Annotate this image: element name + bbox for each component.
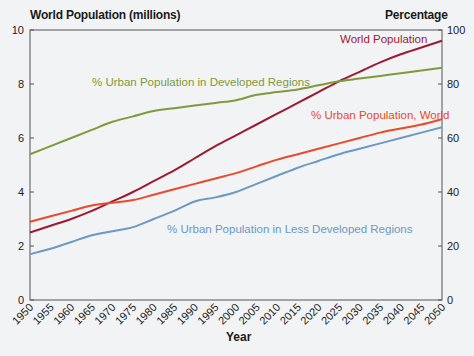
- x-tick-label: 1970: [92, 301, 118, 327]
- annotation-urban-less-developed: % Urban Population in Less Developed Reg…: [167, 223, 413, 235]
- right-tick-label: 100: [447, 24, 465, 36]
- x-tick-label: 1990: [174, 301, 200, 327]
- x-tick-label: 1950: [10, 301, 36, 327]
- right-tick-label: 20: [447, 240, 459, 252]
- x-tick-label: 2005: [236, 301, 262, 327]
- right-tick-label: 80: [447, 78, 459, 90]
- left-tick-label: 6: [18, 132, 24, 144]
- left-tick-label: 2: [18, 240, 24, 252]
- right-tick-label: 0: [447, 294, 453, 306]
- x-tick-label: 2025: [319, 301, 345, 327]
- x-tick-label: 1980: [133, 301, 159, 327]
- x-tick-label: 2015: [277, 301, 303, 327]
- x-tick-label: 1955: [30, 301, 56, 327]
- line-urban-less-developed: [30, 127, 442, 254]
- right-tick-label: 40: [447, 186, 459, 198]
- x-tick-label: 2035: [360, 301, 386, 327]
- x-tick-label: 1995: [195, 301, 221, 327]
- chart-axes: 0246810020406080100195019551960196519701…: [10, 24, 466, 327]
- x-tick-label: 1960: [51, 301, 77, 327]
- x-tick-label: 1975: [113, 301, 139, 327]
- x-tick-label: 2040: [380, 301, 406, 327]
- x-tick-label: 2000: [216, 301, 242, 327]
- plot-frame: [30, 30, 442, 300]
- x-tick-label: 2010: [257, 301, 283, 327]
- left-tick-label: 8: [18, 78, 24, 90]
- annotation-urban-developed: % Urban Population in Developed Regions: [92, 76, 310, 88]
- annotation-world-population: World Population: [340, 33, 427, 45]
- right-tick-label: 60: [447, 132, 459, 144]
- x-tick-label: 2050: [422, 301, 448, 327]
- x-tick-label: 2020: [298, 301, 324, 327]
- x-tick-label: 2045: [401, 301, 427, 327]
- line-world-population: [30, 41, 442, 233]
- line-chart: 0246810020406080100195019551960196519701…: [0, 0, 474, 356]
- left-tick-label: 10: [12, 24, 24, 36]
- x-tick-label: 2030: [339, 301, 365, 327]
- left-tick-label: 4: [18, 186, 24, 198]
- chart-annotations: World Population % Urban Population in D…: [92, 33, 450, 235]
- x-tick-label: 1985: [154, 301, 180, 327]
- annotation-urban-world: % Urban Population, World: [311, 109, 450, 121]
- x-tick-label: 1965: [71, 301, 97, 327]
